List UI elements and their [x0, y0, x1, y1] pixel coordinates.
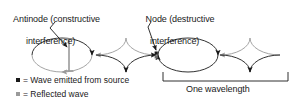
loop-4-upper-left-arc-arrow	[220, 38, 250, 55]
legend-item-reflected-wave-label: = Reflected wave	[23, 89, 88, 99]
node-label-line1: Node (destructive	[146, 14, 215, 24]
antinode-label-line1: Antinode (constructive	[13, 14, 100, 24]
wave-loop-4	[220, 38, 280, 72]
loop-2-upper-left-arc-arrow	[96, 38, 126, 55]
node-label: Node (destructive interference)	[136, 3, 214, 69]
standing-wave-diagram: Antinode (constructive interference) Nod…	[0, 0, 291, 105]
loop-4-upper-right-arc	[250, 38, 280, 55]
legend-square-dark-icon	[16, 78, 20, 82]
loop-4-lower-left-arc-arrow	[220, 55, 250, 72]
loop-2-lower-left-arc-arrow	[96, 55, 126, 72]
legend-item-emitted-wave-label: = Wave emitted from source	[23, 75, 129, 85]
wavelength-bracket	[163, 72, 288, 81]
antinode-label: Antinode (constructive interference)	[4, 3, 100, 69]
legend-item-reflected-wave: = Reflected wave	[16, 89, 88, 99]
antinode-label-line2: interference)	[4, 36, 100, 47]
loop-4-lower-right-arc	[250, 55, 280, 72]
legend-square-gray-icon	[16, 92, 20, 96]
node-label-line2: interference)	[136, 36, 214, 47]
legend-item-emitted-wave: = Wave emitted from source	[16, 75, 129, 85]
wavelength-label: One wavelength	[186, 84, 250, 95]
